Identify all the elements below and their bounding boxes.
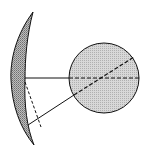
diagonal-solid-ray [28,95,74,125]
optics-diagram [0,0,146,155]
circle-shape [69,43,139,113]
